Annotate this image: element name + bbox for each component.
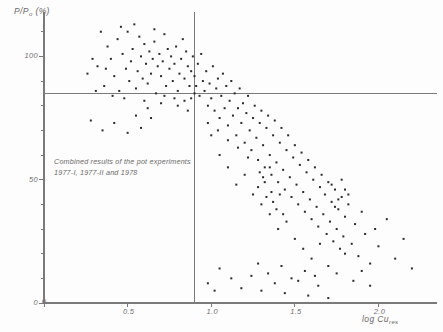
data-point <box>386 218 388 220</box>
data-point <box>275 208 277 210</box>
data-point <box>204 90 206 92</box>
annotation-line-2: 1977-I, 1977-II and 1978 <box>54 167 219 178</box>
data-point <box>262 176 264 178</box>
data-point <box>142 78 144 80</box>
data-point <box>123 97 125 99</box>
data-point <box>239 87 241 89</box>
data-point <box>307 295 309 297</box>
data-point <box>299 164 301 166</box>
data-point <box>163 33 165 35</box>
data-point <box>86 73 88 75</box>
data-point <box>344 216 346 218</box>
data-point <box>163 95 165 97</box>
data-point <box>252 193 254 195</box>
data-point <box>219 267 221 269</box>
data-point <box>185 50 187 52</box>
data-point <box>202 80 204 82</box>
data-point <box>294 144 296 146</box>
data-point <box>270 174 272 176</box>
data-point <box>264 181 266 183</box>
data-point <box>168 68 170 70</box>
scatter-plot-figure: P/Po (%) log Cures Combined results of t… <box>0 0 443 332</box>
data-point <box>143 100 145 102</box>
data-point <box>321 174 323 176</box>
data-point <box>344 189 346 191</box>
x-tick-label-1.0: 1.0 <box>202 307 222 316</box>
data-point <box>245 112 247 114</box>
data-point <box>199 95 201 97</box>
data-point <box>302 248 304 250</box>
data-point <box>207 282 209 284</box>
data-point <box>217 129 219 131</box>
data-point <box>227 124 229 126</box>
data-point <box>311 258 313 260</box>
data-point <box>257 159 259 161</box>
data-point <box>153 41 155 43</box>
data-point <box>157 65 159 67</box>
data-point <box>133 23 135 25</box>
data-point <box>237 147 239 149</box>
y-tick-label-50: 50 <box>20 175 38 184</box>
data-point <box>173 63 175 65</box>
data-point <box>285 149 287 151</box>
data-point <box>192 55 194 57</box>
data-point <box>267 272 269 274</box>
data-point <box>153 28 155 30</box>
data-point <box>220 95 222 97</box>
annotation-line-1: Combined results of the pot experiments <box>54 156 219 167</box>
data-point <box>327 181 329 183</box>
data-point <box>113 122 115 124</box>
data-point <box>158 53 160 55</box>
y-axis-title-unit: (%) <box>33 6 50 16</box>
data-point <box>394 258 396 260</box>
data-point <box>334 189 336 191</box>
data-point <box>252 117 254 119</box>
data-point <box>242 102 244 104</box>
data-point <box>227 166 229 168</box>
data-point <box>347 203 349 205</box>
data-point <box>250 149 252 151</box>
data-point <box>304 270 306 272</box>
data-point <box>269 154 271 156</box>
data-point <box>277 181 279 183</box>
data-point <box>279 142 281 144</box>
data-point <box>229 100 231 102</box>
data-point <box>331 184 333 186</box>
data-point <box>260 290 262 292</box>
data-point <box>120 26 122 28</box>
data-point <box>354 223 356 225</box>
data-point <box>267 115 269 117</box>
data-point <box>311 218 313 220</box>
data-point <box>214 110 216 112</box>
data-point <box>341 196 343 198</box>
plot-annotation: Combined results of the pot experiments … <box>54 156 219 178</box>
data-point <box>411 267 413 269</box>
data-point <box>177 90 179 92</box>
data-point <box>230 80 232 82</box>
data-point <box>222 73 224 75</box>
data-point <box>177 105 179 107</box>
data-point <box>347 193 349 195</box>
data-point <box>103 85 105 87</box>
data-point <box>337 208 339 210</box>
data-point <box>319 186 321 188</box>
data-point <box>215 87 217 89</box>
data-point <box>260 110 262 112</box>
data-point <box>255 137 257 139</box>
data-point <box>351 243 353 245</box>
data-point <box>331 201 333 203</box>
data-point <box>207 122 209 124</box>
data-point <box>314 166 316 168</box>
data-point <box>269 166 271 168</box>
data-point <box>292 157 294 159</box>
data-point <box>182 38 184 40</box>
data-point <box>187 65 189 67</box>
data-point <box>172 80 174 82</box>
data-point <box>277 228 279 230</box>
data-point <box>249 129 251 131</box>
data-point <box>264 166 266 168</box>
data-point <box>342 235 344 237</box>
data-point <box>240 122 242 124</box>
y-axis-title-text: P/P <box>14 6 29 16</box>
data-point <box>150 73 152 75</box>
